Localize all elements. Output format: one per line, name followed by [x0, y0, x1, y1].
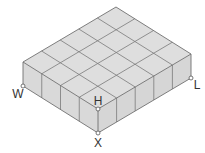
- cube-prism-diagram: W L H X: [0, 0, 205, 153]
- label-w: W: [12, 87, 24, 101]
- vertex-l-marker: [189, 76, 193, 80]
- label-h: H: [94, 94, 103, 108]
- vertex-x-marker: [96, 131, 100, 135]
- label-l: L: [194, 78, 201, 92]
- label-x: X: [94, 136, 102, 150]
